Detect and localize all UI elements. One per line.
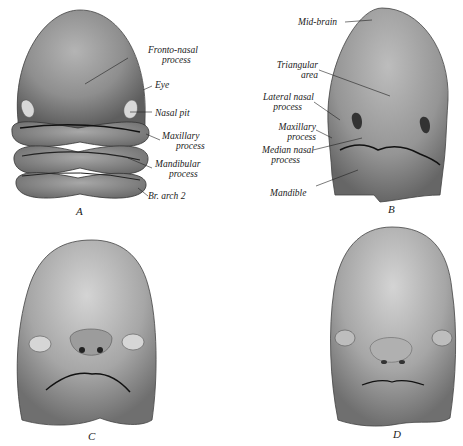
label-eye: Eye — [155, 80, 169, 90]
panel-a-drawing — [12, 10, 160, 198]
label-line: process — [262, 132, 316, 142]
label-mandible: Mandible — [270, 188, 306, 198]
panel-letter-c: C — [88, 430, 95, 442]
label-line: Fronto-nasal — [148, 45, 198, 55]
panel-letter-b: B — [388, 203, 395, 215]
panel-letter-d: D — [393, 428, 401, 440]
label-median-nasal-process: Median nasal process — [250, 145, 314, 165]
label-maxillary-process-b: Maxillary process — [262, 122, 316, 142]
label-line: process — [162, 141, 205, 151]
panel-letter-a: A — [76, 205, 83, 217]
label-maxillary-process-a: Maxillary process — [162, 131, 205, 151]
label-mid-brain: Mid-brain — [298, 17, 337, 27]
label-triangular-area: Triangular area — [264, 60, 318, 80]
label-line: process — [155, 169, 200, 179]
label-line: process — [250, 155, 314, 165]
label-line: Mandibular — [155, 159, 200, 169]
label-line: process — [248, 102, 314, 112]
label-mandibular-process: Mandibular process — [155, 159, 200, 179]
label-line: process — [148, 55, 198, 65]
label-lateral-nasal-process: Lateral nasal process — [248, 92, 314, 112]
label-line: Maxillary — [262, 122, 316, 132]
label-nasal-pit: Nasal pit — [155, 108, 190, 118]
panel-d-drawing — [331, 227, 456, 426]
panel-c-drawing — [17, 240, 156, 425]
label-br-arch-2: Br. arch 2 — [148, 191, 185, 201]
label-fronto-nasal-process: Fronto-nasal process — [148, 45, 198, 65]
label-line: area — [264, 70, 318, 80]
label-line: Triangular — [264, 60, 318, 70]
label-line: Lateral nasal — [248, 92, 314, 102]
label-line: Median nasal — [250, 145, 314, 155]
panel-b-drawing — [313, 8, 448, 202]
label-line: Maxillary — [162, 131, 205, 141]
figure-drawings — [0, 0, 463, 446]
